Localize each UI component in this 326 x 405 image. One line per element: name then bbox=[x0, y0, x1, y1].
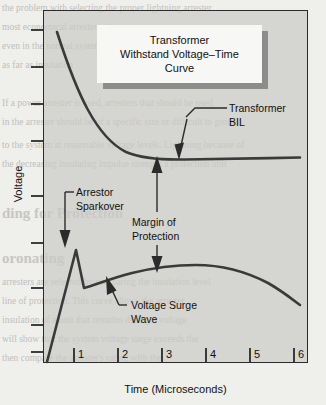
annotation-arrestor-sparkover-line2: Sparkover bbox=[76, 200, 124, 213]
annotation-voltage-surge-wave-line1: Voltage Surge bbox=[131, 299, 197, 312]
x-tick-label-6: 6 bbox=[298, 348, 304, 360]
annotation-transformer-bil-line2: BIL bbox=[229, 116, 245, 129]
title-line-2: Withstand Voltage–Time bbox=[120, 47, 239, 61]
title-box: Transformer Withstand Voltage–Time Curve bbox=[97, 25, 262, 83]
y-axis-ticks bbox=[31, 30, 43, 352]
title-line-1: Transformer bbox=[150, 33, 210, 47]
annotation-arrestor-sparkover-line1: Arrestor bbox=[76, 186, 113, 199]
voltage-time-curve-figure: Transformer Withstand Voltage–Time Curve… bbox=[0, 0, 326, 405]
annotation-margin-of-protection-line2: Protection bbox=[132, 230, 179, 243]
x-tick-label-4: 4 bbox=[210, 348, 216, 360]
y-axis-title: Voltage bbox=[12, 154, 24, 214]
title-line-3: Curve bbox=[165, 61, 194, 75]
x-tick-label-5: 5 bbox=[254, 348, 260, 360]
x-axis-title: Time (Microseconds) bbox=[43, 383, 308, 395]
margin-of-protection-arrow bbox=[152, 156, 163, 273]
annotation-transformer-bil-line1: Transformer bbox=[229, 102, 286, 115]
voltage-surge-wave-leader bbox=[106, 276, 127, 305]
annotation-margin-of-protection-line1: Margin of bbox=[132, 216, 176, 229]
arrestor-sparkover-leader bbox=[60, 192, 75, 248]
x-tick-label-2: 2 bbox=[122, 348, 128, 360]
x-tick-label-3: 3 bbox=[166, 348, 172, 360]
annotation-voltage-surge-wave-line2: Wave bbox=[131, 313, 157, 326]
transformer-bil-leader bbox=[175, 108, 228, 160]
x-tick-label-1: 1 bbox=[78, 348, 84, 360]
x-axis-ticks bbox=[74, 348, 294, 363]
